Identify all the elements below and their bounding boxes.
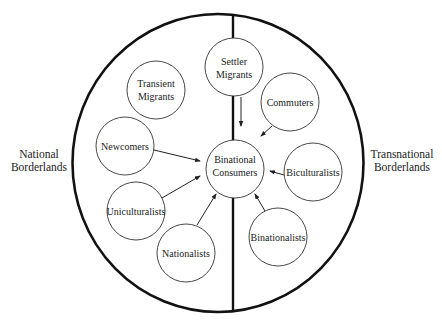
region-label-line: National xyxy=(19,148,59,160)
arrow-uniculturalists-to-consumers xyxy=(162,176,200,198)
node-label: Binational xyxy=(214,154,256,165)
node-label: Newcomers xyxy=(101,141,149,152)
node-label: Uniculturalists xyxy=(107,206,166,217)
node-binational-consumers: Binational Consumers xyxy=(206,140,264,198)
node-label: Migrants xyxy=(216,69,252,80)
borderlands-diagram: Transient Migrants Settler Migrants Comm… xyxy=(0,0,442,323)
node-label: Settler xyxy=(221,56,248,67)
node-biculturalists: Biculturalists xyxy=(284,143,342,201)
arrow-commuters-to-consumers xyxy=(261,126,272,136)
node-nationalists: Nationalists xyxy=(157,224,215,282)
node-label: Transient xyxy=(137,78,175,89)
arrow-biculturalists-to-consumers xyxy=(270,171,284,175)
node-binationalists: Binationalists xyxy=(249,208,307,266)
region-label-line: Borderlands xyxy=(11,161,68,173)
node-commuters: Commuters xyxy=(261,73,319,131)
arrow-nationalists-to-consumers xyxy=(197,194,216,225)
region-label-line: Borderlands xyxy=(374,161,431,173)
arrow-newcomers-to-consumers xyxy=(154,150,200,161)
node-label: Migrants xyxy=(138,91,174,102)
node-label: Nationalists xyxy=(162,248,210,259)
region-label-line: Transnational xyxy=(371,148,434,160)
node-label: Biculturalists xyxy=(286,167,339,178)
node-label: Commuters xyxy=(267,97,314,108)
region-label-national: National Borderlands xyxy=(11,148,68,173)
node-label: Consumers xyxy=(213,167,258,178)
node-uniculturalists: Uniculturalists xyxy=(107,182,166,240)
node-settler-migrants: Settler Migrants xyxy=(205,38,263,96)
region-label-transnational: Transnational Borderlands xyxy=(371,148,434,173)
node-label: Binationalists xyxy=(251,232,306,243)
node-newcomers: Newcomers xyxy=(96,117,154,175)
node-transient-migrants: Transient Migrants xyxy=(127,61,185,119)
arrow-binationalists-to-consumers xyxy=(255,194,265,211)
